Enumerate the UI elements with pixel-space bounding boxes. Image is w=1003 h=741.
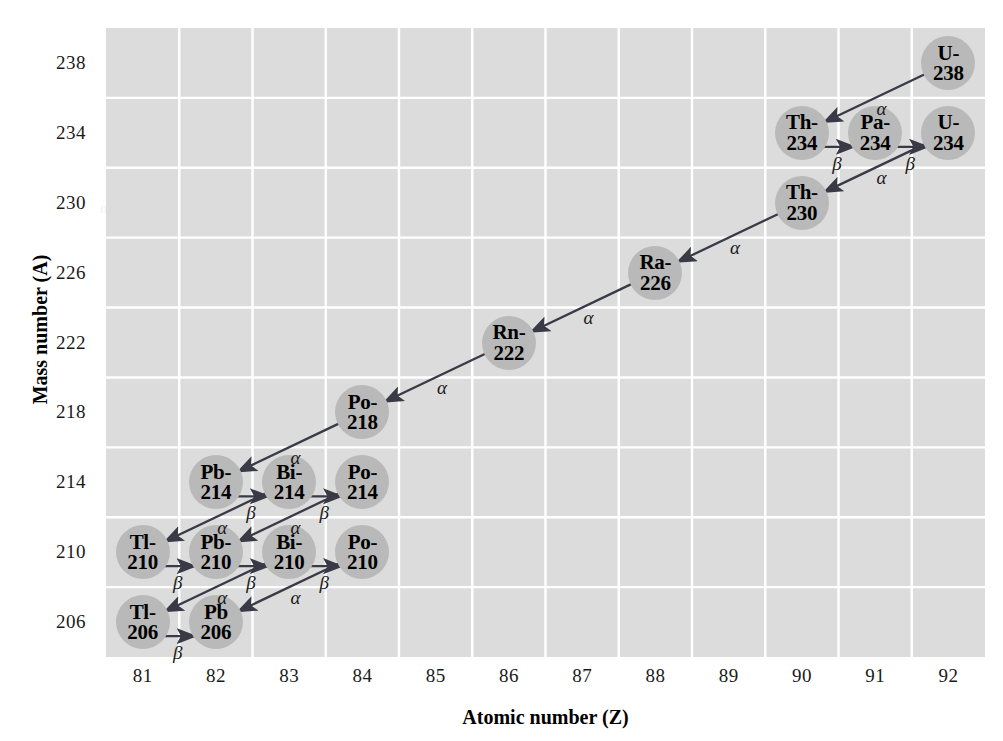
nuclide-node-u-234[interactable]: U-234 — [921, 106, 975, 160]
decay-series-figure: the image formation in free spacea thin … — [0, 0, 1003, 741]
nuclide-symbol: Po- — [348, 462, 377, 482]
nuclide-mass: 210 — [274, 552, 305, 572]
nuclide-symbol: Tl- — [130, 602, 156, 622]
decay-label-beta-tl-210-to-pb-210: β — [173, 572, 182, 594]
nuclide-symbol: U- — [938, 43, 960, 63]
nuclide-mass: 238 — [933, 63, 964, 83]
nuclide-node-rn-222[interactable]: Rn-222 — [482, 316, 536, 370]
nuclide-node-tl-210[interactable]: Tl-210 — [116, 525, 170, 579]
nuclide-mass: 214 — [201, 482, 232, 502]
nuclide-mass: 206 — [127, 622, 158, 642]
x-tick-85: 85 — [406, 665, 466, 687]
nuclide-symbol: Tl- — [130, 532, 156, 552]
nuclide-node-pb-206[interactable]: Pb206 — [189, 595, 243, 649]
x-tick-89: 89 — [699, 665, 759, 687]
decay-label-alpha-th-230-to-ra-226: α — [730, 237, 740, 259]
nuclide-node-pb-214[interactable]: Pb-214 — [189, 455, 243, 509]
nuclide-symbol: Po- — [348, 532, 377, 552]
nuclide-node-th-234[interactable]: Th-234 — [775, 106, 829, 160]
nuclide-node-bi-210[interactable]: Bi-210 — [262, 525, 316, 579]
nuclide-symbol: Pb- — [201, 462, 232, 482]
y-tick-238: 238 — [0, 52, 86, 74]
nuclide-mass: 214 — [347, 482, 378, 502]
nuclide-node-tl-206[interactable]: Tl-206 — [116, 595, 170, 649]
x-tick-92: 92 — [918, 665, 978, 687]
nuclide-node-ra-226[interactable]: Ra-226 — [628, 246, 682, 300]
decay-label-beta-tl-206-to-pb-206: β — [173, 642, 182, 664]
nuclide-mass: 226 — [640, 273, 671, 293]
nuclide-node-pa-234[interactable]: Pa-234 — [848, 106, 902, 160]
x-tick-86: 86 — [479, 665, 539, 687]
nuclide-mass: 214 — [274, 482, 305, 502]
nuclide-mass: 210 — [347, 552, 378, 572]
decay-label-beta-pb-214-to-bi-214: β — [246, 502, 255, 524]
x-axis-title: Atomic number (Z) — [106, 706, 985, 729]
nuclide-mass: 206 — [201, 622, 232, 642]
nuclide-mass: 234 — [787, 133, 818, 153]
y-axis-title: Mass number (A) — [29, 120, 52, 540]
nuclide-symbol: Rn- — [492, 322, 525, 342]
decay-label-beta-bi-210-to-po-210: β — [320, 572, 329, 594]
decay-label-alpha-u-234-to-th-230: α — [877, 167, 887, 189]
decay-label-alpha-bi-210-to-tl-206: α — [217, 587, 227, 609]
nuclide-mass: 230 — [787, 203, 818, 223]
nuclide-symbol: Th- — [786, 182, 818, 202]
x-tick-83: 83 — [259, 665, 319, 687]
y-tick-210: 210 — [0, 541, 86, 563]
decay-label-beta-bi-214-to-po-214: β — [320, 502, 329, 524]
nuclide-mass: 210 — [201, 552, 232, 572]
nuclide-node-u-238[interactable]: U-238 — [921, 36, 975, 90]
decay-label-alpha-po-214-to-pb-210: α — [291, 517, 301, 539]
nuclide-mass: 234 — [860, 133, 891, 153]
nuclide-symbol: Po- — [348, 392, 377, 412]
x-tick-87: 87 — [552, 665, 612, 687]
x-tick-88: 88 — [625, 665, 685, 687]
x-tick-82: 82 — [186, 665, 246, 687]
nuclide-node-bi-214[interactable]: Bi-214 — [262, 455, 316, 509]
x-tick-90: 90 — [772, 665, 832, 687]
decay-label-alpha-po-210-to-pb-206: α — [291, 587, 301, 609]
nuclide-symbol: Th- — [786, 112, 818, 132]
decay-label-beta-pa-234-to-u-234: β — [906, 153, 915, 175]
decay-label-beta-pb-210-to-bi-210: β — [246, 572, 255, 594]
nuclide-symbol: U- — [938, 112, 960, 132]
decay-label-alpha-bi-214-to-tl-210: α — [217, 517, 227, 539]
x-tick-91: 91 — [845, 665, 905, 687]
plot-area: U-238Th-234Pa-234U-234Th-230Ra-226Rn-222… — [106, 28, 985, 657]
y-tick-206: 206 — [0, 611, 86, 633]
x-tick-84: 84 — [332, 665, 392, 687]
decay-label-alpha-po-218-to-pb-214: α — [291, 447, 301, 469]
decay-label-alpha-u-238-to-th-234: α — [877, 98, 887, 120]
nuclide-mass: 234 — [933, 133, 964, 153]
nuclide-mass: 210 — [127, 552, 158, 572]
nuclide-mass: 218 — [347, 412, 378, 432]
decay-label-beta-th-234-to-pa-234: β — [832, 153, 841, 175]
nuclide-node-pb-210[interactable]: Pb-210 — [189, 525, 243, 579]
nuclide-symbol: Ra- — [639, 252, 671, 272]
x-tick-81: 81 — [113, 665, 173, 687]
nuclide-mass: 222 — [494, 343, 525, 363]
decay-label-alpha-rn-222-to-po-218: α — [437, 377, 447, 399]
nuclide-node-th-230[interactable]: Th-230 — [775, 176, 829, 230]
decay-label-alpha-ra-226-to-rn-222: α — [584, 307, 594, 329]
